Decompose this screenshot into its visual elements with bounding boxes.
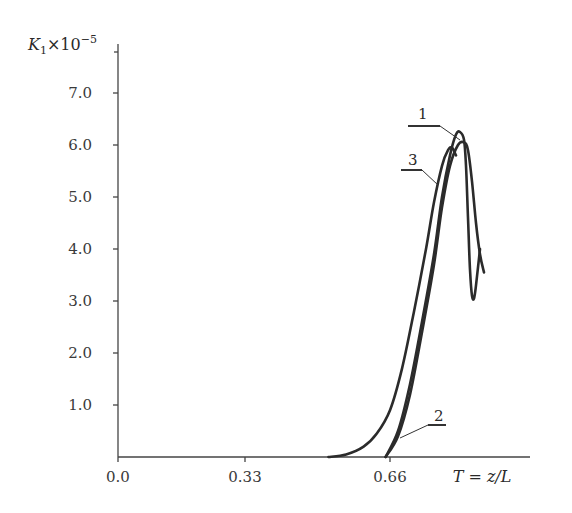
label-curve-3: 3	[401, 151, 438, 185]
y-tick-label: 5.0	[68, 188, 92, 206]
x-tick-label: 0.66	[373, 468, 406, 486]
chart-canvas: 1.02.03.04.05.06.07.0 0.00.330.66 K1×10−…	[0, 0, 572, 513]
y-axis	[114, 44, 118, 457]
y-tick-label: 6.0	[68, 136, 92, 154]
y-tick-label: 1.0	[68, 396, 92, 414]
y-tick-label: 7.0	[68, 84, 92, 102]
y-ticks: 1.02.03.04.05.06.07.0	[68, 84, 118, 414]
curves	[329, 131, 485, 457]
svg-text:1: 1	[418, 105, 428, 123]
x-axis-title: T = z/L	[453, 467, 512, 486]
svg-text:2: 2	[434, 407, 444, 425]
y-tick-label: 3.0	[68, 292, 92, 310]
x-ticks: 0.00.330.66	[106, 457, 407, 486]
label-curve-1: 1	[408, 105, 460, 140]
y-tick-label: 4.0	[68, 240, 92, 258]
x-tick-label: 0.33	[228, 468, 261, 486]
x-tick-label: 0.0	[106, 468, 130, 486]
svg-text:3: 3	[408, 151, 418, 169]
y-axis-title: K1×10−5	[27, 33, 97, 57]
y-tick-label: 2.0	[68, 344, 92, 362]
